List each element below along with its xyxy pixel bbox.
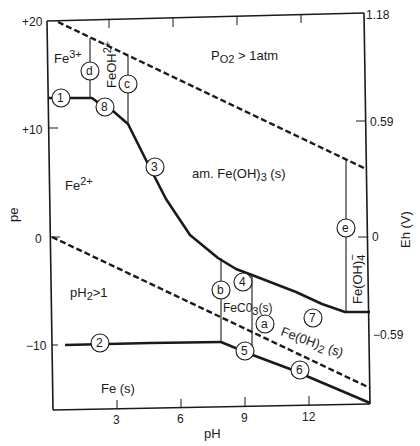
svg-text:d: d (86, 64, 93, 78)
marker-8: 8 (96, 98, 114, 116)
region-ph2: pH2>1 (70, 285, 108, 302)
svg-text:6: 6 (296, 363, 303, 377)
marker-6: 6 (291, 361, 309, 379)
boundary-2 (65, 342, 221, 345)
tick-label-ph-9: 9 (241, 411, 248, 425)
svg-text:2: 2 (96, 336, 103, 350)
marker-d: d (81, 62, 99, 80)
pourbaix-diagram: +20 +10 0 −10 1.18 0.59 0 −0.59 3 6 9 12… (0, 0, 420, 446)
left-tick-labels: +20 +10 0 −10 (22, 15, 47, 353)
region-po2: PO2 > 1atm (211, 48, 278, 65)
svg-text:4: 4 (239, 275, 246, 289)
y-left-axis-title: pe (6, 208, 21, 222)
marker-4: 4 (234, 273, 252, 291)
marker-e: e (337, 219, 355, 237)
boundary-markers: d c b a e (81, 62, 355, 333)
region-feoh4: Fe(OH)4− (346, 254, 367, 304)
svg-text:a: a (261, 317, 268, 331)
tick-label-ph-6: 6 (177, 412, 184, 426)
region-feoh2: FeOH2+ (101, 41, 119, 88)
region-fes: Fe (s) (101, 381, 135, 396)
marker-a: a (256, 315, 274, 333)
marker-b: b (212, 281, 230, 299)
marker-1: 1 (52, 89, 70, 107)
tick-label-eh-1.18: 1.18 (366, 8, 390, 22)
bottom-tick-labels: 3 6 9 12 (113, 410, 316, 427)
right-tick-labels: 1.18 0.59 0 −0.59 (366, 8, 404, 342)
tick-label-ph-3: 3 (113, 413, 120, 427)
marker-3: 3 (146, 158, 164, 176)
svg-text:7: 7 (309, 311, 316, 325)
tick-label-ph-12: 12 (302, 410, 316, 424)
tick-label-eh-0: 0 (372, 230, 379, 244)
tick-label-pe-20: +20 (22, 15, 43, 29)
svg-text:e: e (342, 221, 349, 235)
x-axis-title: pH (204, 426, 221, 441)
phase-boundaries (48, 98, 370, 403)
marker-7: 7 (304, 309, 322, 327)
svg-text:c: c (124, 77, 130, 91)
marker-c: c (119, 75, 137, 93)
region-feco3: FeC03(s) (223, 301, 272, 317)
tick-label-pe-0: 0 (35, 232, 42, 246)
region-feoh3: am. Fe(OH)3 (s) (192, 166, 286, 183)
svg-text:b: b (217, 283, 224, 297)
region-fe3: Fe3+ (54, 48, 82, 66)
marker-2: 2 (91, 334, 109, 352)
tick-label-pe-10: +10 (22, 123, 43, 137)
y-right-axis-title: Eh (V) (398, 211, 413, 248)
tick-label-pe-minus10: −10 (26, 339, 47, 353)
water-stability-lines (52, 22, 370, 388)
svg-text:8: 8 (101, 100, 108, 114)
tick-label-eh-minus0.59: −0.59 (373, 328, 404, 342)
region-fe2: Fe2+ (65, 175, 93, 193)
region-feoh2s: Fe(0H)2 (s) (278, 324, 345, 362)
svg-text:3: 3 (151, 160, 158, 174)
h2o-h2-boundary (52, 237, 370, 388)
marker-5: 5 (236, 342, 254, 360)
svg-text:5: 5 (241, 344, 248, 358)
svg-text:1: 1 (57, 91, 64, 105)
tick-label-eh-0.59: 0.59 (370, 115, 394, 129)
